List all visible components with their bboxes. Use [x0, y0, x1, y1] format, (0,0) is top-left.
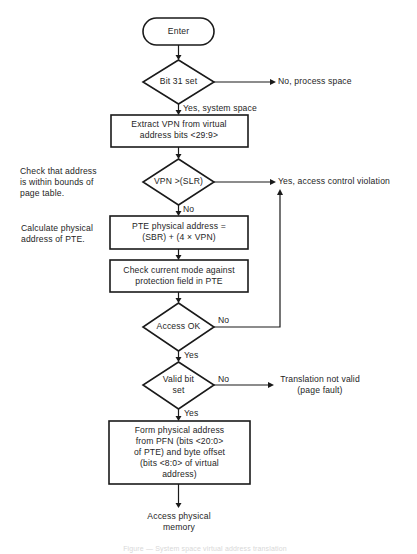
process-text: protection field in PTE [123, 276, 234, 287]
decision-access-ok-label: Access OK [157, 321, 201, 332]
start-text: Enter [168, 26, 189, 36]
annotation-text: Check that address [20, 166, 97, 177]
decision-text: Bit 31 set [160, 76, 197, 86]
arrowhead-icon [268, 382, 274, 388]
edge-text: Yes [184, 408, 198, 418]
edge-label-access-violation: Yes, access control violation [278, 176, 390, 187]
annotation-pte-address: Calculate physical address of PTE. [21, 223, 93, 245]
edge-text: Yes, access control violation [278, 176, 390, 186]
edge-label-bounds-no: No [183, 204, 194, 215]
decision-valid-bit-label: Valid bit set [163, 374, 194, 396]
arrowhead-icon [176, 503, 182, 508]
edge-label-process-space: No, process space [278, 76, 352, 87]
process-text: PTE physical address = [132, 221, 226, 232]
process-text: Form physical address [134, 425, 225, 436]
decision-text: set [163, 385, 194, 396]
process-form-physical-address-label: Form physical address from PFN (bits <20… [134, 425, 225, 480]
outcome-page-fault: Translation not valid (page fault) [280, 374, 360, 396]
decision-bounds-label: VPN >(SLR) [154, 176, 203, 187]
caption-text: Figure — System space virtual address tr… [123, 545, 287, 552]
edge-label-valid-no: No [218, 374, 229, 385]
edge-text: No [183, 204, 194, 214]
process-extract-vpn-label: Extract VPN from virtual address bits <2… [131, 119, 226, 141]
process-text: Extract VPN from virtual [131, 119, 226, 130]
edge-label-system-space: Yes, system space [183, 103, 257, 114]
annotation-text: is within bounds of [20, 177, 97, 188]
process-text: address bits <29:9> [131, 130, 226, 141]
edge-text: No [218, 315, 229, 325]
end-access-memory: Access physical memory [147, 511, 210, 533]
outcome-text: Translation not valid [280, 374, 360, 385]
process-text: of PTE) and byte offset [134, 447, 225, 458]
process-text: (SBR) + (4 × VPN) [132, 232, 226, 243]
arrowhead-icon [277, 189, 283, 195]
edge-text: No, process space [278, 76, 352, 86]
edge-text: No [218, 374, 229, 384]
edge-label-access-yes: Yes [184, 350, 198, 361]
arrowhead-icon [270, 79, 276, 85]
annotation-text: Calculate physical [21, 223, 93, 234]
end-text: memory [147, 522, 210, 533]
process-text: (bits <8:0> of virtual [134, 458, 225, 469]
arrowhead-icon [270, 179, 276, 185]
end-text: Access physical [147, 511, 210, 522]
edge-label-valid-yes: Yes [184, 408, 198, 419]
start-label: Enter [168, 26, 189, 37]
decision-bit31-label: Bit 31 set [160, 76, 197, 87]
outcome-text: (page fault) [280, 385, 360, 396]
figure-caption: Figure — System space virtual address tr… [123, 543, 287, 554]
edge-text: Yes, system space [183, 103, 257, 113]
process-text: Check current mode against [123, 265, 234, 276]
process-check-mode-label: Check current mode against protection fi… [123, 265, 234, 287]
process-pte-address-label: PTE physical address = (SBR) + (4 × VPN) [132, 221, 226, 243]
annotation-text: page table. [20, 188, 97, 199]
process-text: address) [134, 469, 225, 480]
annotation-text: address of PTE. [21, 234, 93, 245]
annotation-bounds-check: Check that address is within bounds of p… [20, 166, 97, 199]
edge-text: Yes [184, 350, 198, 360]
process-text: from PFN (bits <20:0> [134, 436, 225, 447]
decision-text: Valid bit [163, 374, 194, 385]
decision-text: VPN >(SLR) [154, 176, 203, 186]
decision-text: Access OK [157, 321, 201, 331]
edge-label-access-no: No [218, 315, 229, 326]
